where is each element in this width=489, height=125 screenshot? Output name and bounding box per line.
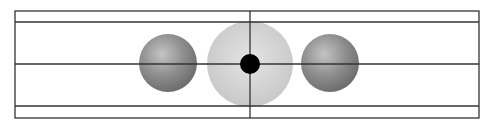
diagram-stage <box>0 0 489 125</box>
central-dot <box>240 54 260 74</box>
left-sphere <box>139 34 197 92</box>
right-sphere <box>301 34 359 92</box>
sphere-diagram <box>0 0 489 125</box>
